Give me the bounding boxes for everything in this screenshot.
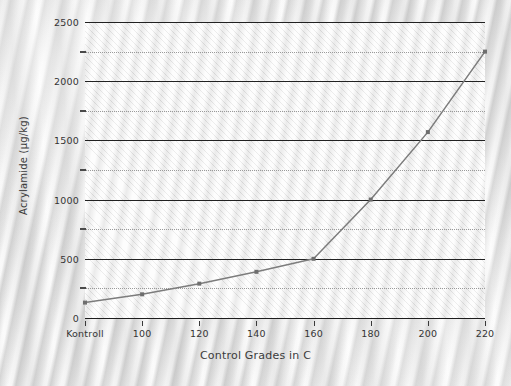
x-axis-title: Control Grades in C <box>0 349 511 362</box>
x-tick-label: Kontroll <box>66 328 104 339</box>
x-tick-mark <box>314 321 315 326</box>
x-tick-label: 160 <box>304 328 323 339</box>
x-tick-mark <box>428 321 429 326</box>
x-tick-label: 140 <box>247 328 266 339</box>
x-tick-label: 220 <box>476 328 495 339</box>
x-tick-mark <box>142 321 143 326</box>
x-tick-mark <box>85 321 86 326</box>
x-tick-mark <box>199 321 200 326</box>
chart-page: Acrylamide (µg/kg) 05001000150020002500 … <box>0 0 511 386</box>
x-tick-label: 180 <box>361 328 380 339</box>
x-tick-mark <box>256 321 257 326</box>
x-tick-label: 120 <box>190 328 209 339</box>
x-tick-mark <box>485 321 486 326</box>
x-tick-label: 100 <box>133 328 152 339</box>
x-axis-ticks: Kontroll100120140160180200220 <box>0 0 511 386</box>
x-tick-mark <box>371 321 372 326</box>
x-tick-label: 200 <box>418 328 437 339</box>
